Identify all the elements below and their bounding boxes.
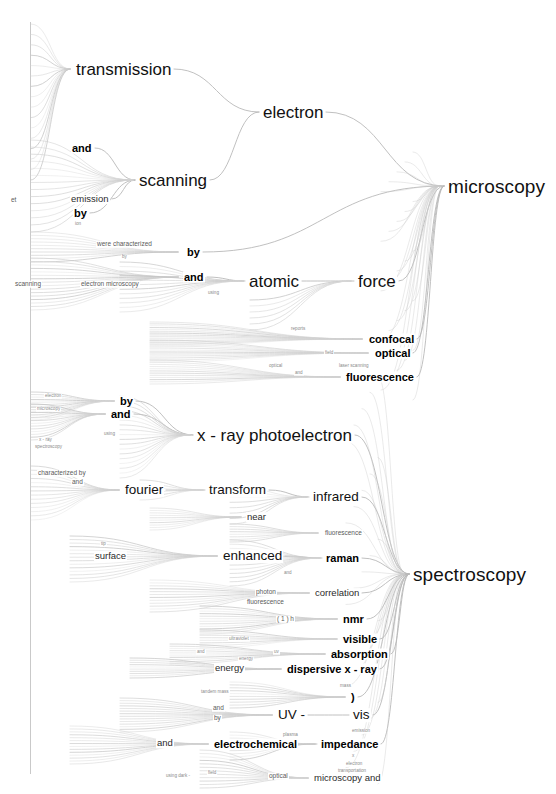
tree-node[interactable]: et	[10, 197, 17, 204]
tree-node[interactable]: plasma	[282, 733, 299, 738]
tree-node[interactable]: microscopy	[447, 177, 546, 196]
tree-node[interactable]: fluorescence	[246, 599, 285, 606]
tree-node[interactable]: laser scanning	[338, 364, 370, 369]
tree-node[interactable]: microscopy and	[313, 773, 382, 783]
tree-node[interactable]: impedance	[320, 739, 379, 750]
tree-node[interactable]: spectroscopy	[412, 565, 527, 584]
tree-node[interactable]: microscopy	[36, 407, 61, 412]
tree-node[interactable]: absorption	[330, 649, 389, 660]
tree-node[interactable]: and	[110, 409, 132, 420]
tree-node[interactable]: x - ray	[38, 438, 53, 443]
tree-node[interactable]: and	[212, 705, 225, 712]
tree-node[interactable]: electron	[345, 762, 363, 767]
root-trunk-link	[397, 186, 439, 221]
tree-node[interactable]: )	[350, 692, 356, 703]
tree-node[interactable]: emission	[70, 194, 110, 204]
tree-node[interactable]: electron	[262, 104, 324, 121]
tree-node[interactable]: tandem mass	[200, 690, 230, 695]
tree-node[interactable]: electron	[44, 394, 62, 399]
tree-node[interactable]: optical	[268, 773, 289, 780]
tree-node[interactable]: using	[103, 432, 116, 437]
tree-node[interactable]: x	[351, 754, 355, 759]
tree-node[interactable]: fluorescence	[324, 530, 363, 537]
tree-node[interactable]: infrared	[312, 490, 360, 504]
tree-node[interactable]: scanning	[14, 281, 42, 288]
tree-node[interactable]: by	[119, 396, 134, 407]
tree-node[interactable]: field	[207, 771, 217, 776]
tree-node[interactable]: UV -	[277, 708, 306, 722]
tree-node[interactable]: fourier	[124, 483, 164, 497]
root-trunk-link	[370, 556, 404, 574]
tree-link	[355, 435, 409, 574]
tree-node[interactable]: and	[71, 479, 84, 486]
tree-node[interactable]: and	[196, 650, 206, 655]
tree-node[interactable]: tip	[100, 542, 107, 547]
tree-node[interactable]: visible	[342, 634, 378, 645]
tree-node[interactable]: x - ray photoelectron	[196, 427, 353, 444]
tree-node[interactable]: emission	[351, 729, 371, 734]
tree-node[interactable]: enhanced	[222, 549, 283, 563]
fine-link	[31, 490, 119, 512]
tree-node[interactable]: optical	[374, 348, 411, 359]
tree-node[interactable]: characterized by	[37, 470, 87, 477]
fine-link	[31, 487, 119, 490]
tree-node[interactable]: by	[121, 255, 128, 260]
tree-node[interactable]: using	[207, 291, 220, 296]
tree-node[interactable]: nmr	[342, 614, 365, 625]
tree-node[interactable]: transform	[208, 483, 267, 497]
tree-link	[210, 112, 259, 180]
fine-link	[230, 697, 345, 702]
tree-node[interactable]: surface	[94, 551, 127, 561]
tree-node[interactable]: vis	[352, 708, 371, 722]
root-trunk-link	[405, 162, 439, 186]
tree-node[interactable]: and	[71, 143, 93, 154]
fine-link	[150, 375, 340, 377]
tree-node[interactable]: field	[324, 351, 334, 356]
tree-node[interactable]: by	[73, 208, 88, 219]
root-trunk-link	[362, 409, 404, 574]
tree-link	[174, 69, 259, 112]
tree-node[interactable]: reports	[290, 327, 306, 332]
tree-node[interactable]: fluorescence	[345, 372, 415, 383]
tree-node[interactable]: using dark -	[165, 774, 191, 779]
fine-link	[200, 760, 308, 778]
tree-node[interactable]: photon	[255, 589, 277, 596]
tree-node[interactable]: by	[213, 715, 222, 722]
fine-link	[230, 688, 345, 697]
tree-node[interactable]: ion	[74, 222, 82, 227]
tree-node[interactable]: by	[186, 247, 201, 258]
tree-node[interactable]: near	[246, 512, 267, 522]
tree-node[interactable]: transmission	[75, 61, 172, 78]
tree-node[interactable]: uv	[273, 650, 280, 655]
tree-node[interactable]: and	[294, 371, 304, 376]
tree-node[interactable]: spectroscopy	[34, 445, 63, 450]
tree-node[interactable]: energy	[214, 663, 245, 673]
fine-link	[31, 154, 133, 180]
tree-node[interactable]: dispersive x - ray	[286, 664, 378, 675]
fine-link	[200, 619, 337, 631]
tree-node[interactable]: ( 1 ) h	[276, 616, 295, 623]
tree-node[interactable]: raman	[325, 553, 360, 564]
tree-node[interactable]: atomic	[248, 273, 300, 290]
tree-node[interactable]: scanning	[138, 172, 208, 189]
fine-link	[120, 435, 190, 473]
tree-node[interactable]: energy	[238, 657, 254, 662]
tree-node[interactable]: confocal	[368, 334, 415, 345]
tree-node[interactable]: were characterized	[96, 241, 153, 248]
tree-node[interactable]: optical	[268, 364, 283, 369]
tree-node[interactable]: force	[357, 273, 397, 290]
fine-link	[31, 69, 70, 149]
tree-node[interactable]: and	[183, 272, 205, 283]
tree-node[interactable]: correlation	[314, 588, 360, 598]
tree-node[interactable]: mass	[339, 684, 352, 689]
root-trunk-link	[413, 152, 439, 186]
fine-link	[70, 554, 217, 556]
tree-node[interactable]: electrochemical	[213, 739, 298, 750]
fine-link	[200, 619, 337, 629]
fine-link	[150, 517, 241, 525]
tree-node[interactable]: ultraviolet	[228, 637, 250, 642]
fine-link	[70, 729, 208, 744]
tree-node[interactable]: and	[283, 571, 293, 576]
tree-node[interactable]: and	[156, 738, 174, 748]
tree-node[interactable]: electron microscopy	[80, 281, 140, 288]
